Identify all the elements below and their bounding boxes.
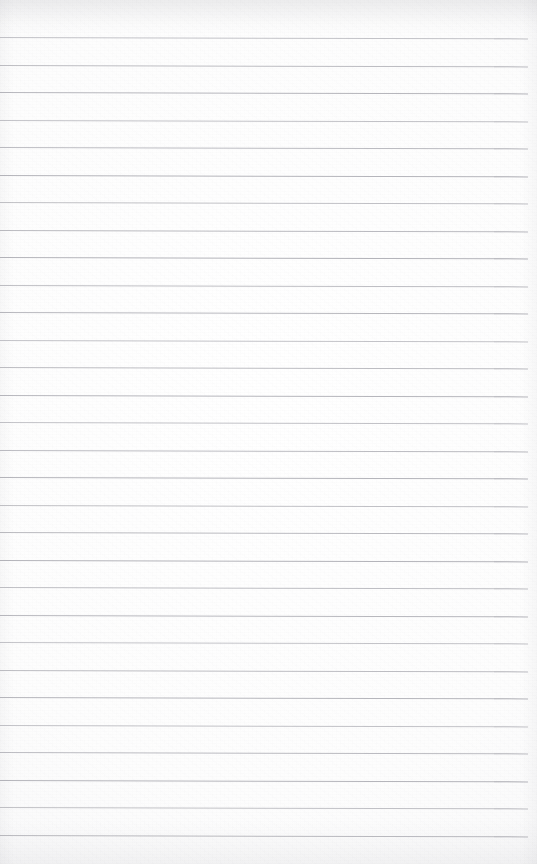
ruled-lines-group	[0, 0, 537, 864]
scanned-page	[0, 0, 537, 864]
rule-line	[0, 642, 528, 644]
rule-line	[0, 725, 528, 727]
rule-line	[0, 780, 528, 782]
rule-line	[0, 340, 528, 342]
rule-line	[0, 230, 528, 232]
rule-line	[0, 560, 528, 562]
rule-line	[0, 835, 528, 837]
rule-line	[0, 477, 528, 479]
rule-line	[0, 92, 528, 94]
rule-line	[0, 120, 528, 122]
rule-line	[0, 285, 528, 287]
rule-line	[0, 532, 528, 534]
rule-line	[0, 312, 528, 314]
rule-line	[0, 65, 528, 67]
rule-line	[0, 807, 528, 809]
rule-line	[0, 257, 528, 259]
rule-line	[0, 147, 528, 149]
rule-line	[0, 697, 528, 699]
rule-line	[0, 587, 528, 589]
rule-line	[0, 670, 528, 672]
rule-line	[0, 505, 528, 507]
rule-line	[0, 37, 528, 39]
rule-line	[0, 367, 528, 369]
rule-line	[0, 395, 528, 397]
rule-line	[0, 202, 528, 204]
rule-line	[0, 175, 528, 177]
rule-line	[0, 450, 528, 452]
rule-line	[0, 422, 528, 424]
rule-line	[0, 752, 528, 754]
rule-line	[0, 615, 528, 617]
